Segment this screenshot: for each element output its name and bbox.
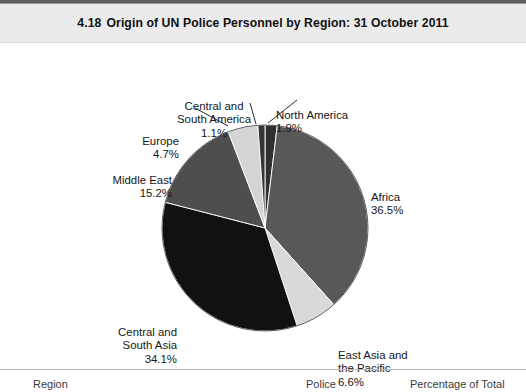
slice-label-africa-name: Africa	[371, 191, 400, 203]
table-header-region: Region	[33, 378, 68, 390]
slice-label-central-south-asia-line2: South Asia	[123, 339, 177, 351]
slice-label-europe-value: 4.7%	[142, 148, 179, 161]
figure-number: 4.18	[77, 16, 101, 30]
table-top-rule	[0, 369, 526, 370]
slice-label-north-america-name: North America	[276, 109, 348, 121]
slice-label-europe-name: Europe	[142, 135, 179, 147]
slice-label-middle-east-value: 15.2%	[112, 187, 172, 200]
slice-label-middle-east-name: Middle East	[112, 174, 172, 186]
pie-slice-group	[162, 125, 368, 331]
slice-label-north-america: North America 1.9%	[276, 109, 348, 136]
slice-label-central-south-asia: Central and South Asia 34.1%	[118, 326, 177, 366]
slice-label-north-america-value: 1.9%	[276, 122, 348, 135]
slice-label-east-asia-line1: East Asia and	[338, 349, 408, 361]
figure-title-text: Origin of UN Police Personnel by Region:…	[106, 16, 448, 30]
slice-label-central-south-asia-line1: Central and	[118, 326, 177, 338]
slice-label-central-south-asia-value: 34.1%	[118, 353, 177, 366]
figure-title-band: 4.18Origin of UN Police Personnel by Reg…	[0, 4, 526, 42]
slice-label-middle-east: Middle East 15.2%	[112, 174, 172, 201]
table-header-percentage-of-total: Percentage of Total	[410, 378, 505, 390]
slice-label-central-south-america-line1: Central and	[185, 100, 244, 112]
pie-chart-svg	[0, 43, 526, 369]
page-title: 4.18Origin of UN Police Personnel by Reg…	[77, 16, 448, 30]
slice-label-africa: Africa 36.5%	[371, 191, 403, 218]
pie-chart-plot-area: Africa 36.5% East Asia and the Pacific 6…	[0, 43, 526, 369]
table-header-row: Region Police Percentage of Total	[0, 378, 526, 392]
figure-page: 4.18Origin of UN Police Personnel by Reg…	[0, 0, 526, 392]
slice-label-central-south-america-value: 1.1%	[177, 127, 251, 140]
slice-label-africa-value: 36.5%	[371, 204, 403, 217]
table-header-police: Police	[306, 378, 336, 390]
slice-label-europe: Europe 4.7%	[142, 135, 179, 162]
slice-label-central-south-america: Central and South America 1.1%	[177, 100, 251, 140]
slice-label-central-south-america-line2: South America	[177, 113, 251, 125]
